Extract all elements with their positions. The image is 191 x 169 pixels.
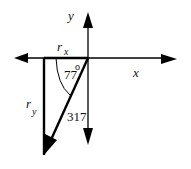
resultant-arrowhead-icon	[44, 134, 57, 155]
y-axis-up-arrow-icon	[83, 12, 93, 28]
x-axis-label: x	[132, 65, 139, 80]
magnitude-label: 317	[67, 109, 87, 124]
vector-diagram: y x r x r y 77 o 317	[0, 0, 191, 169]
y-axis	[83, 12, 93, 145]
y-axis-label: y	[66, 8, 74, 23]
rx-label: r	[57, 39, 63, 54]
y-axis-down-arrow-icon	[83, 128, 93, 145]
angle-degree-symbol: o	[75, 61, 80, 72]
rx-subscript: x	[63, 46, 69, 57]
x-axis	[14, 53, 177, 64]
x-axis-left-arrow-icon	[14, 53, 28, 63]
ry-subscript: y	[31, 106, 37, 117]
x-axis-right-arrow-icon	[161, 54, 177, 64]
